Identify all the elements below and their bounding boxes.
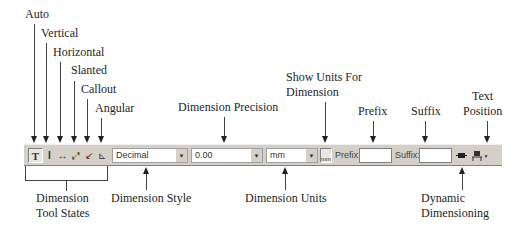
label-horizontal: Horizontal — [53, 45, 104, 59]
chevron-down-icon[interactable]: ▼ — [306, 149, 317, 162]
leader-slanted — [74, 81, 75, 136]
prefix-label: Prefix: — [335, 150, 361, 160]
auto-dimension-button[interactable]: T — [28, 148, 43, 163]
suffix-label: Suffix: — [395, 150, 420, 160]
arrow-dynamic-dimensioning — [459, 167, 465, 174]
dynamic-dimensioning-button[interactable] — [454, 148, 469, 163]
dimension-style-value: Decimal — [116, 150, 149, 160]
label-vertical: Vertical — [41, 26, 78, 40]
arrow-suffix — [422, 136, 428, 143]
leader-suffix — [425, 121, 426, 136]
arrow-auto — [31, 136, 37, 143]
arrow-angular — [98, 136, 104, 143]
leader-callout — [87, 99, 88, 136]
leader-dimension-style — [146, 174, 147, 190]
slanted-dimension-icon: ⤢ — [72, 150, 80, 162]
label-dimension-precision: Dimension Precision — [178, 100, 278, 114]
label-prefix: Prefix — [358, 104, 387, 118]
leader-horizontal — [60, 62, 61, 136]
suffix-input[interactable] — [419, 148, 452, 163]
leader-dynamic-dimensioning — [462, 174, 463, 190]
label-angular: Angular — [95, 101, 134, 115]
leader-dimension-precision — [224, 117, 225, 136]
show-units-icon: mm — [321, 156, 331, 162]
arrow-dimension-units — [282, 167, 288, 174]
leader-auto — [34, 24, 35, 136]
horizontal-dimension-icon: ↔ — [58, 150, 68, 161]
arrow-dimension-precision — [221, 136, 227, 143]
show-units-button[interactable]: mm — [320, 148, 332, 163]
label-suffix: Suffix — [411, 104, 441, 118]
bracket-left — [25, 166, 26, 180]
dimension-toolbar: T I ↔ ⤢ ↙ ⊾ Decimal ▼ 0.00 ▼ mm ▼ mm Pre… — [24, 144, 502, 166]
arrow-dimension-style — [143, 167, 149, 174]
prefix-input[interactable] — [359, 148, 392, 163]
leader-angular — [101, 118, 102, 136]
arrow-slanted — [71, 136, 77, 143]
leader-text-position — [487, 121, 488, 136]
vertical-dimension-icon: I — [48, 150, 51, 161]
leader-tool-states — [66, 180, 67, 191]
arrow-show-units — [322, 136, 328, 143]
arrow-callout — [84, 136, 90, 143]
label-show-units-1: Show Units For — [286, 70, 362, 84]
dimension-precision-value: 0.00 — [195, 150, 213, 160]
leader-show-units — [325, 102, 326, 136]
arrow-vertical — [43, 136, 49, 143]
auto-dimension-icon: T — [32, 150, 39, 162]
label-dimension-style: Dimension Style — [111, 191, 191, 205]
label-auto: Auto — [25, 7, 49, 21]
label-tool-states-2: Tool States — [36, 206, 90, 220]
arrow-horizontal — [57, 136, 63, 143]
label-tool-states-1: Dimension — [36, 191, 89, 205]
label-dimension-units: Dimension Units — [245, 191, 327, 205]
dimension-style-select[interactable]: Decimal ▼ — [112, 148, 188, 163]
bracket-right — [107, 166, 108, 180]
chevron-down-icon[interactable]: ▼ — [484, 153, 489, 159]
text-position-icon — [472, 151, 482, 161]
label-dynamic-1: Dynamic — [421, 191, 465, 205]
text-position-button[interactable]: ▼ — [470, 148, 490, 163]
label-show-units-2: Dimension — [286, 85, 339, 99]
arrow-prefix — [370, 136, 376, 143]
label-text-position-2: Position — [463, 104, 502, 118]
angular-dimension-icon: ⊾ — [98, 150, 106, 161]
leader-dimension-units — [285, 174, 286, 190]
leader-vertical — [46, 43, 47, 136]
chevron-down-icon[interactable]: ▼ — [176, 149, 187, 162]
dimension-units-value: mm — [270, 150, 285, 160]
label-text-position-1: Text — [472, 89, 493, 103]
label-callout: Callout — [81, 82, 116, 96]
arrow-text-position — [484, 136, 490, 143]
leader-prefix — [373, 121, 374, 136]
label-slanted: Slanted — [71, 63, 107, 77]
dimension-units-select[interactable]: mm ▼ — [266, 148, 318, 163]
angular-dimension-button[interactable]: ⊾ — [94, 148, 109, 163]
dynamic-dimensioning-icon — [456, 151, 467, 160]
label-dynamic-2: Dimensioning — [421, 206, 489, 220]
dimension-precision-select[interactable]: 0.00 ▼ — [191, 148, 263, 163]
chevron-down-icon[interactable]: ▼ — [251, 149, 262, 162]
callout-dimension-icon: ↙ — [85, 150, 93, 161]
